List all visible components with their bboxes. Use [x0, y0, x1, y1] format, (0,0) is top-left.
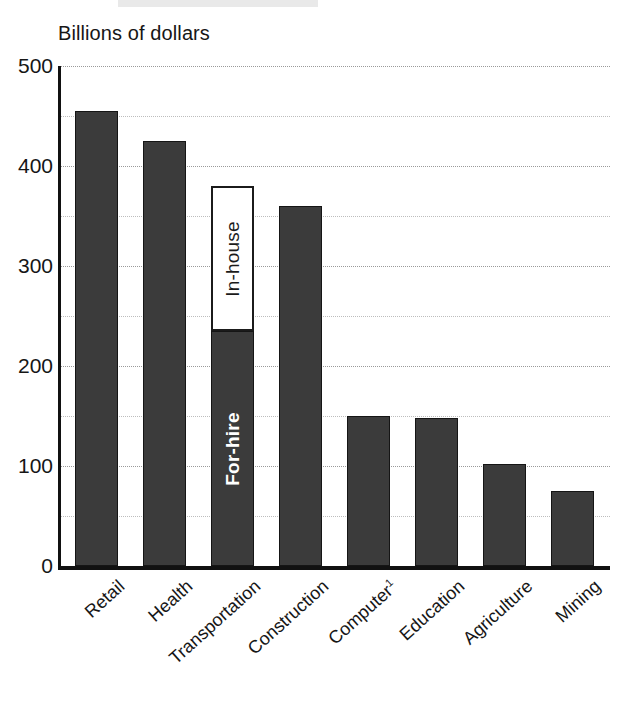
scan-artifact — [118, 0, 318, 7]
x-axis-label-computer: Computer1 — [323, 576, 401, 649]
gridline-major — [58, 466, 610, 467]
x-axis-label-health: Health — [144, 576, 197, 626]
y-axis-tick-label: 0 — [5, 554, 53, 578]
bar-segment-label: For-hire — [222, 412, 244, 485]
bar-transportation[interactable]: For-hireIn-house — [211, 186, 254, 566]
bar-segment-education[interactable] — [415, 418, 458, 566]
bar-segment-mining[interactable] — [551, 491, 594, 566]
y-axis-tick-label: 200 — [5, 354, 53, 378]
y-axis-line — [58, 66, 61, 567]
bar-construction[interactable] — [279, 206, 322, 566]
x-axis-category-labels: RetailHealthTransportationConstructionCo… — [58, 570, 610, 700]
bar-segment-agriculture[interactable] — [483, 464, 526, 566]
x-axis-label-mining: Mining — [551, 576, 604, 627]
bar-segment-inhouse[interactable]: In-house — [211, 186, 254, 331]
bar-segment-health[interactable] — [143, 141, 186, 566]
y-axis-tick-label: 400 — [5, 154, 53, 178]
gridline-minor — [58, 316, 610, 317]
x-axis-label-agriculture: Agriculture — [459, 576, 537, 649]
x-axis-label-retail: Retail — [80, 576, 128, 622]
y-axis-tick-label: 500 — [5, 54, 53, 78]
bar-segment-forhire[interactable]: For-hire — [211, 331, 254, 566]
bar-computer[interactable] — [347, 416, 390, 566]
y-axis-tick-labels: 5004003002001000 — [0, 66, 53, 566]
gridline-major — [58, 66, 610, 67]
plot-area: For-hireIn-house — [58, 66, 610, 566]
bar-retail[interactable] — [75, 111, 118, 566]
y-axis-tick-label: 100 — [5, 454, 53, 478]
y-axis-tick-label: 300 — [5, 254, 53, 278]
gridline-minor — [58, 516, 610, 517]
gridline-major — [58, 266, 610, 267]
gridline-minor — [58, 416, 610, 417]
x-axis-label-education: Education — [395, 576, 469, 645]
bar-education[interactable] — [415, 418, 458, 566]
bar-segment-construction[interactable] — [279, 206, 322, 566]
gridline-major — [58, 166, 610, 167]
bar-segment-label: In-house — [222, 221, 244, 297]
bar-agriculture[interactable] — [483, 464, 526, 566]
gridline-minor — [58, 116, 610, 117]
footnote-marker: 1 — [382, 576, 395, 589]
chart-axis-title: Billions of dollars — [58, 22, 210, 45]
gridline-major — [58, 366, 610, 367]
chart-figure: Billions of dollars 5004003002001000 For… — [0, 0, 618, 702]
bar-segment-computer[interactable] — [347, 416, 390, 566]
gridline-minor — [58, 216, 610, 217]
bar-mining[interactable] — [551, 491, 594, 566]
bar-health[interactable] — [143, 141, 186, 566]
bar-segment-retail[interactable] — [75, 111, 118, 566]
